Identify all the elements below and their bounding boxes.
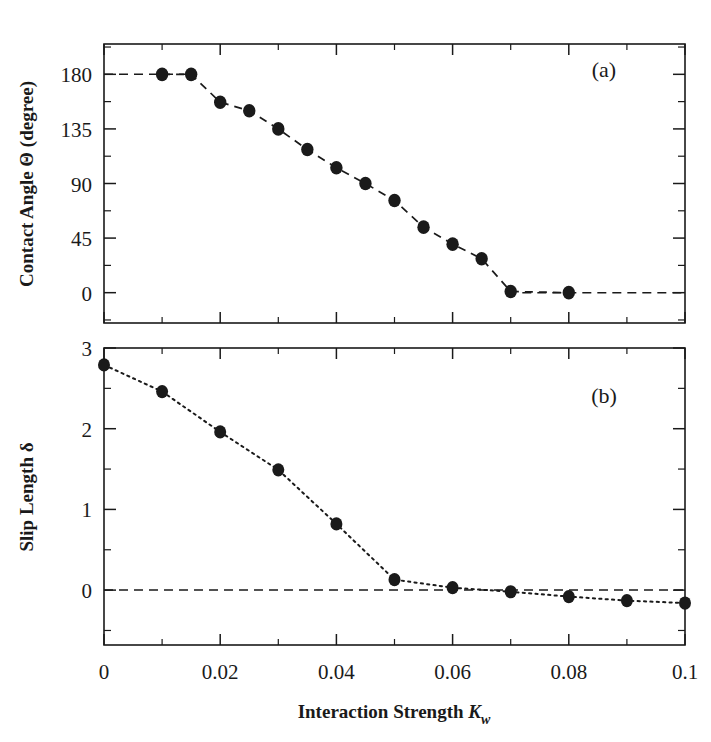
data-point [505,285,517,299]
data-point [388,194,400,208]
y-tick-label: 3 [82,337,93,361]
panel-a: 04590135180 (a) Contact Angle Θ (degree) [16,44,685,323]
data-point [272,463,284,476]
data-point [214,95,226,109]
x-tick-label: 0.1 [672,660,698,684]
data-point [156,385,168,398]
y-tick-label: 0 [82,282,93,306]
figure-svg: 04590135180 (a) Contact Angle Θ (degree)… [0,0,711,742]
y-tick-label: 90 [71,173,92,197]
x-tick-label: 0.04 [318,660,355,684]
data-point [330,517,342,530]
panel-b-xtick-labels: 00.020.040.060.080.1 [99,660,698,684]
data-point [156,68,168,82]
x-tick-label: 0.08 [550,660,587,684]
data-point [98,358,110,371]
x-axis-label-subscript: w [481,712,491,727]
data-point [417,220,429,234]
x-axis-label-prefix: Interaction Strength [298,701,469,722]
y-tick-label: 2 [82,418,93,442]
x-tick-label: 0.02 [202,660,239,684]
panel-a-data-points [156,68,575,300]
panel-b-y-axis-label-prefix: Slip Length [16,452,37,551]
y-tick-label: 180 [61,63,93,87]
data-point [679,596,691,609]
data-point [475,252,487,266]
y-tick-label: 45 [71,227,92,251]
data-point [185,68,197,82]
panel-b-y-axis-label: Slip Length δ [16,442,37,551]
figure-container: 04590135180 (a) Contact Angle Θ (degree)… [0,0,711,742]
data-point [214,425,226,438]
y-tick-label: 1 [82,498,93,522]
data-point [563,286,575,300]
x-tick-label: 0.06 [434,660,471,684]
panel-a-ticks [104,44,685,323]
data-point [505,585,517,598]
y-tick-label: 0 [82,579,93,603]
panel-b-ytick-labels: 0123 [82,337,93,603]
panel-a-ytick-labels: 04590135180 [61,63,93,305]
data-point [446,237,458,251]
data-point [563,590,575,603]
panel-a-tag: (a) [592,57,616,82]
panel-b-tag: (b) [591,383,617,408]
data-point [330,161,342,175]
data-point [389,573,401,586]
panel-a-y-axis-label: Contact Angle Θ (degree) [16,81,38,287]
data-point [272,122,284,136]
panel-b: 0123 00.020.040.060.080.1 (b) Slip Lengt… [16,337,698,684]
data-point [621,594,633,607]
panel-a-frame [104,44,685,323]
x-axis-label: Interaction Strength Kw [298,701,491,727]
data-point [447,581,459,594]
data-point [359,177,371,191]
data-point [301,143,313,157]
panel-a-guide-lines [104,74,685,292]
panel-b-y-axis-label-symbol: δ [16,442,37,452]
data-point [243,104,255,118]
y-tick-label: 135 [61,118,93,142]
x-tick-label: 0 [99,660,110,684]
